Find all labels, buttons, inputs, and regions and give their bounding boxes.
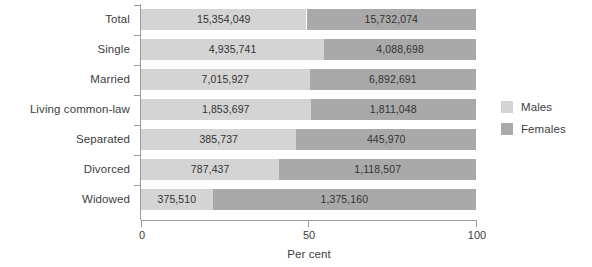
x-axis-tick xyxy=(308,220,309,227)
y-axis-category-labels: Total Single Married Living common-law S… xyxy=(0,0,136,220)
legend: Males Females xyxy=(501,97,566,141)
y-axis-label-single: Single xyxy=(97,39,130,59)
bar-row: 385,737 445,970 xyxy=(141,129,476,150)
bar-row: 7,015,927 6,892,691 xyxy=(141,69,476,90)
y-axis-tick xyxy=(134,65,141,66)
bar-value-females: 1,375,160 xyxy=(213,189,476,210)
x-axis-line xyxy=(141,220,477,221)
y-axis-tick xyxy=(134,185,141,186)
bar-row: 4,935,741 4,088,698 xyxy=(141,39,476,60)
bar-value-males: 15,354,049 xyxy=(141,9,306,30)
bar-segment-males: 375,510 xyxy=(141,189,213,210)
x-axis-tick-label-100: 100 xyxy=(468,229,486,241)
bar-segment-females: 1,118,507 xyxy=(279,159,476,180)
bar-segment-males: 15,354,049 xyxy=(141,9,306,30)
bar-segment-males: 1,853,697 xyxy=(141,99,311,120)
y-axis-label-divorced: Divorced xyxy=(84,159,130,179)
bar-segment-males: 4,935,741 xyxy=(141,39,324,60)
legend-item-males[interactable]: Males xyxy=(501,97,566,116)
bar-value-females: 6,892,691 xyxy=(310,69,476,90)
y-axis-tick xyxy=(134,155,141,156)
bar-value-females: 445,970 xyxy=(296,129,476,150)
y-axis-tick xyxy=(134,125,141,126)
legend-item-females[interactable]: Females xyxy=(501,119,566,138)
y-axis-label-total: Total xyxy=(105,9,130,29)
stacked-bar-chart: Total Single Married Living common-law S… xyxy=(0,0,592,267)
x-axis-tick-label-50: 50 xyxy=(303,229,315,241)
bar-segment-females: 1,811,048 xyxy=(311,99,476,120)
bar-row: 787,437 1,118,507 xyxy=(141,159,476,180)
bar-value-females: 1,118,507 xyxy=(279,159,476,180)
y-axis-tick xyxy=(134,5,141,6)
bar-row: 15,354,049 15,732,074 xyxy=(141,9,476,30)
y-axis-tick xyxy=(134,95,141,96)
y-axis-label-married: Married xyxy=(90,69,130,89)
legend-swatch-males-icon xyxy=(501,101,513,113)
bar-value-females: 4,088,698 xyxy=(324,39,476,60)
bar-value-females: 1,811,048 xyxy=(311,99,476,120)
x-axis-tick xyxy=(476,220,477,227)
y-axis-label-living-common-law: Living common-law xyxy=(30,99,130,119)
bar-value-males: 4,935,741 xyxy=(141,39,324,60)
bar-segment-females: 445,970 xyxy=(296,129,476,150)
bar-row: 1,853,697 1,811,048 xyxy=(141,99,476,120)
bar-segment-males: 7,015,927 xyxy=(141,69,310,90)
bar-value-males: 7,015,927 xyxy=(141,69,310,90)
x-axis-title: Per cent xyxy=(141,248,477,260)
legend-label-females: Females xyxy=(521,123,566,135)
bar-segment-females: 15,732,074 xyxy=(307,9,477,30)
bar-value-males: 375,510 xyxy=(141,189,213,210)
bar-value-females: 15,732,074 xyxy=(307,9,477,30)
y-axis-label-widowed: Widowed xyxy=(82,189,130,209)
bar-segment-females: 4,088,698 xyxy=(324,39,476,60)
bar-row: 375,510 1,375,160 xyxy=(141,189,476,210)
bar-segment-males: 787,437 xyxy=(141,159,279,180)
bar-segment-males: 385,737 xyxy=(141,129,296,150)
x-axis-tick xyxy=(141,220,142,227)
legend-label-males: Males xyxy=(521,101,552,113)
bar-value-males: 787,437 xyxy=(141,159,279,180)
x-axis-tick-label-0: 0 xyxy=(139,229,145,241)
plot-area: 15,354,049 15,732,074 4,935,741 4,088,69… xyxy=(141,0,476,220)
y-axis-tick xyxy=(134,35,141,36)
bar-value-males: 1,853,697 xyxy=(141,99,311,120)
bar-value-males: 385,737 xyxy=(141,129,296,150)
y-axis-label-separated: Separated xyxy=(76,129,130,149)
legend-swatch-females-icon xyxy=(501,123,513,135)
bar-segment-females: 1,375,160 xyxy=(213,189,476,210)
bar-segment-females: 6,892,691 xyxy=(310,69,476,90)
